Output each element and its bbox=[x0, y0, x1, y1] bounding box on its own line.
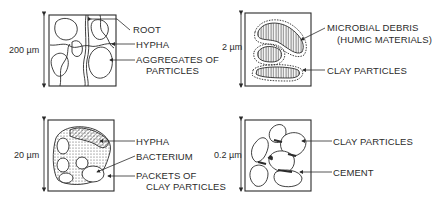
label-clay-particles: CLAY PARTICLES bbox=[327, 65, 407, 76]
label-packets-of: PACKETS OF bbox=[136, 170, 196, 181]
scale-label-bottom-left: 20 µm bbox=[14, 150, 39, 160]
scale-label-top-right: 2 µm bbox=[222, 42, 242, 52]
panel-bottom-right bbox=[241, 120, 311, 191]
label-aggregates-of: AGGREGATES OF bbox=[136, 54, 219, 65]
panel-top-left bbox=[44, 15, 116, 87]
label-microbial-debris: MICROBIAL DEBRIS bbox=[327, 22, 419, 33]
label-bacterium: BACTERIUM bbox=[136, 151, 193, 162]
scale-label-top-left: 200 µm bbox=[9, 45, 39, 55]
bacterium bbox=[82, 166, 104, 182]
scale-label-bottom-right: 0.2 µm bbox=[214, 150, 242, 160]
clay-particles bbox=[256, 67, 300, 78]
panel-top-right bbox=[241, 13, 311, 87]
label-humic-materials: (HUMIC MATERIALS) bbox=[337, 34, 432, 45]
aggregate bbox=[55, 18, 78, 40]
label-hypha: HYPHA bbox=[136, 39, 169, 50]
root-line bbox=[83, 15, 86, 86]
label-clay-particles: CLAY PARTICLES bbox=[146, 181, 226, 192]
label-cement: CEMENT bbox=[333, 167, 374, 178]
label-hypha: HYPHA bbox=[136, 136, 169, 147]
label-root: ROOT bbox=[133, 24, 161, 35]
label-clay-particles: CLAY PARTICLES bbox=[333, 136, 413, 147]
label-particles: PARTICLES bbox=[146, 65, 199, 76]
aggregate bbox=[89, 47, 113, 78]
panel-bottom-left bbox=[44, 120, 114, 191]
